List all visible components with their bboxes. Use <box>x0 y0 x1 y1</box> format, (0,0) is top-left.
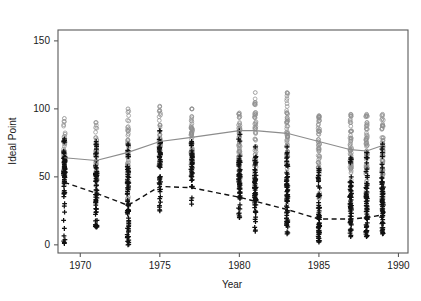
y-tick-label: 150 <box>33 35 50 46</box>
chart-root: 19701975198019851990 050100150 Year Idea… <box>0 0 421 301</box>
y-tick-label: 0 <box>44 239 50 250</box>
x-tick-label: 1985 <box>308 260 331 271</box>
y-tick-label: 100 <box>33 103 50 114</box>
scatter-plot: 19701975198019851990 050100150 Year Idea… <box>0 0 421 301</box>
x-tick-label: 1975 <box>149 260 172 271</box>
x-axis-title: Year <box>222 279 243 290</box>
x-tick-label: 1980 <box>228 260 251 271</box>
y-axis-title: Ideal Point <box>7 117 18 164</box>
y-tick-label: 50 <box>39 171 51 182</box>
x-tick-label: 1990 <box>387 260 410 271</box>
x-tick-label: 1970 <box>69 260 92 271</box>
